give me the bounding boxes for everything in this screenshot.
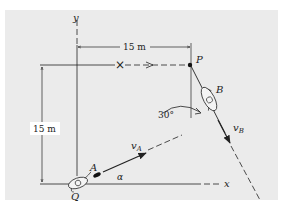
point-q-label: Q <box>71 191 79 202</box>
particle-a-label: A <box>89 162 97 173</box>
x-axis-label: x <box>224 178 230 189</box>
dim-vertical-label: 15 m <box>33 124 56 134</box>
kinematics-diagram: y x 15 m × 15 m P vB B 30° vA α A <box>0 0 290 221</box>
point-p-label: P <box>195 54 203 65</box>
particle-b-label: B <box>215 84 223 95</box>
diagram-panel <box>5 10 278 200</box>
angle-30-label: 30° <box>158 110 174 120</box>
y-axis-label: y <box>72 12 79 23</box>
angle-alpha-label: α <box>117 172 123 182</box>
x-marker: × <box>115 58 125 72</box>
dim-horizontal-label: 15 m <box>123 42 146 52</box>
